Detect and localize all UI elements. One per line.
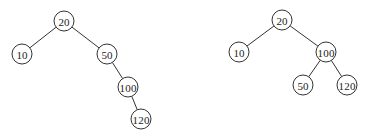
node-label: 100: [120, 82, 138, 94]
tree-node-120: 120: [337, 75, 357, 95]
tree-edge: [112, 62, 122, 78]
binary-tree-diagram: 201050100120201010050120: [0, 0, 367, 136]
tree-nodes: 201050100120201010050120: [12, 10, 357, 129]
tree-edge: [309, 60, 321, 77]
tree-edges: [30, 26, 342, 110]
tree-edge: [331, 60, 341, 76]
node-label: 100: [318, 47, 336, 59]
node-label: 20: [59, 16, 71, 28]
node-label: 10: [234, 47, 246, 59]
tree-node-50: 50: [293, 75, 313, 95]
node-label: 50: [102, 49, 114, 61]
tree-edge: [132, 96, 137, 109]
tree-node-120: 120: [131, 109, 151, 129]
tree-node-10: 10: [229, 42, 249, 62]
tree-node-10: 10: [12, 44, 32, 64]
tree-edge: [247, 26, 274, 46]
tree-before-rotation: 201050100120: [12, 11, 151, 129]
tree-edge: [290, 26, 318, 46]
tree-after-rotation: 201010050120: [229, 10, 357, 95]
tree-node-20: 20: [54, 11, 74, 31]
tree-node-100: 100: [118, 77, 138, 97]
tree-node-20: 20: [272, 10, 292, 30]
node-label: 10: [17, 49, 29, 61]
tree-node-100: 100: [316, 42, 336, 62]
node-label: 50: [298, 80, 310, 92]
tree-edge: [30, 27, 56, 48]
tree-node-50: 50: [97, 44, 117, 64]
node-label: 20: [277, 15, 289, 27]
node-label: 120: [133, 114, 151, 126]
node-label: 120: [339, 80, 357, 92]
tree-edge: [72, 27, 99, 48]
